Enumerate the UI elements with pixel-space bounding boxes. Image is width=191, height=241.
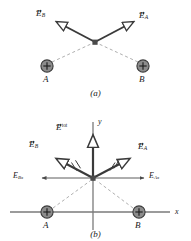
panel-b-graphics <box>0 104 191 241</box>
label-charge-b-panel-a: B <box>139 75 145 84</box>
vector-E-A-arrow <box>95 22 133 42</box>
label-axis-y: y <box>98 118 102 126</box>
label-charge-a-panel-a: A <box>43 75 49 84</box>
dashed-line-a-to-point <box>52 44 91 62</box>
caption-panel-b: (b) <box>0 229 191 239</box>
field-point-marker <box>92 40 97 45</box>
label-vector-E-B-panel-b: E B <box>29 140 38 150</box>
dashed-line-a-to-point-b <box>53 181 90 208</box>
label-vector-E-B-panel-a: E B <box>36 9 45 19</box>
label-axis-x: x <box>175 208 179 216</box>
dashed-line-b-to-point <box>99 44 138 62</box>
label-vector-E-Bx: EBx <box>13 172 23 181</box>
field-point-marker-b <box>90 176 95 181</box>
electric-field-superposition-figure: E B E A A B (a) <box>0 0 191 241</box>
label-vector-E-Ax: EAx <box>149 172 159 181</box>
vector-E-B-arrow <box>57 22 95 42</box>
panel-b: E tot E B E <box>0 104 191 241</box>
dashed-line-b-to-point-b <box>97 181 133 208</box>
label-vector-E-tot: E tot <box>56 123 67 132</box>
panel-a: E B E A A B (a) <box>0 0 191 108</box>
caption-panel-a: (a) <box>0 88 191 98</box>
tick-mark-e-b-2 <box>76 160 81 168</box>
label-vector-E-A-panel-a: E A <box>139 11 148 21</box>
label-vector-E-A-panel-b: E A <box>138 142 147 152</box>
